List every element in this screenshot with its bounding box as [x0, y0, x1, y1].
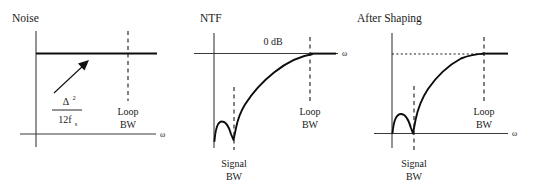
panel-after-shaping-signal-bw-label-line2: BW [406, 171, 423, 182]
fraction-denominator: 12f [58, 114, 72, 125]
panel-noise-loop-bw-label-line2: BW [120, 119, 137, 130]
panel-ntf-loop-bw-label-line1: Loop [299, 106, 320, 117]
panel-noise-loop-bw-label-line1: Loop [117, 106, 138, 117]
panel-after-shaping: After Shaping ω Signal BW Loop BW [357, 12, 517, 182]
noise-shaping-figure: Noise ω Loop BW Δ 2 12f s [0, 0, 541, 195]
panel-ntf-signal-bw-label-line1: Signal [221, 158, 247, 169]
ntf-curve [215, 54, 313, 141]
noise-floor-callout-arrow-shaft [54, 65, 84, 93]
panel-after-shaping-loop-bw-label-line2: BW [476, 119, 493, 130]
panel-ntf-zero-db-label: 0 dB [263, 36, 283, 47]
figure-canvas: Noise ω Loop BW Δ 2 12f s [0, 0, 541, 195]
panel-ntf-title: NTF [200, 12, 222, 24]
panel-after-shaping-loop-bw-label-line1: Loop [473, 106, 494, 117]
shaped-noise-curve [393, 54, 485, 134]
panel-after-shaping-title: After Shaping [357, 12, 422, 25]
panel-ntf-x-axis-label: ω [342, 49, 347, 58]
fraction-denominator-subscript: s [75, 120, 78, 127]
fraction-numerator-exponent: 2 [72, 94, 75, 101]
fraction-numerator: Δ [63, 96, 70, 107]
panel-noise-x-axis-label: ω [160, 130, 165, 139]
panel-after-shaping-x-axis-label: ω [512, 129, 517, 138]
panel-noise: Noise ω Loop BW Δ 2 12f s [12, 12, 165, 147]
panel-noise-title: Noise [12, 12, 39, 24]
panel-after-shaping-signal-bw-label-line1: Signal [401, 158, 427, 169]
quantization-noise-fraction: Δ 2 12f s [52, 94, 82, 127]
panel-ntf-signal-bw-label-line2: BW [226, 171, 243, 182]
panel-ntf: NTF ω 0 dB Signal BW Loop BW [194, 12, 347, 182]
panel-ntf-loop-bw-label-line2: BW [302, 119, 319, 130]
